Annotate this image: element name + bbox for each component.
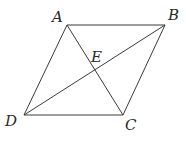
label-c: C <box>125 116 137 134</box>
geometry-diagram: A B E D C <box>0 0 186 141</box>
label-b: B <box>167 6 179 24</box>
label-e: E <box>90 48 102 66</box>
label-d: D <box>4 112 17 130</box>
label-a: A <box>50 8 63 26</box>
